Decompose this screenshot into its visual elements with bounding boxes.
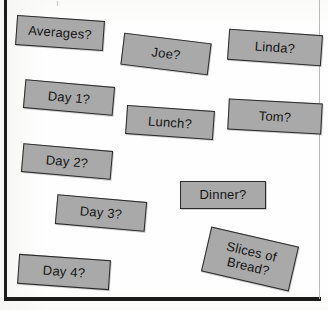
card-lunch[interactable]: Lunch?	[125, 105, 215, 140]
card-tom[interactable]: Tom?	[227, 99, 322, 135]
page-border-left	[4, 0, 7, 301]
card-dinner[interactable]: Dinner?	[180, 181, 266, 209]
card-averages[interactable]: Averages?	[15, 15, 105, 51]
card-day-1[interactable]: Day 1?	[23, 79, 115, 116]
cut-off-header-text: . | . , .	[0, 0, 328, 6]
card-linda[interactable]: Linda?	[227, 29, 323, 66]
card-day-2[interactable]: Day 2?	[21, 143, 113, 180]
card-joe[interactable]: Joe?	[120, 33, 211, 75]
page-border-bottom	[4, 297, 321, 301]
card-day-3[interactable]: Day 3?	[55, 194, 147, 232]
worksheet-page: . | . , . Averages?Joe?Linda?Day 1?Lunch…	[0, 0, 328, 310]
card-day-4[interactable]: Day 4?	[17, 254, 111, 290]
card-slices-of-bread[interactable]: Slices of Bread?	[201, 226, 299, 291]
